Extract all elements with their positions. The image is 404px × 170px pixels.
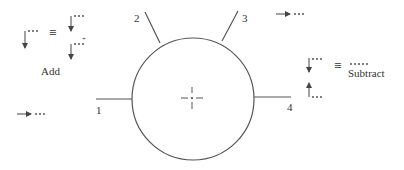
subtract-label: Subtract bbox=[348, 67, 385, 79]
port-2-line bbox=[145, 12, 160, 43]
subtract-arrows-icon bbox=[309, 58, 322, 98]
add-right-arrows-icon: + bbox=[71, 15, 86, 59]
junction-diagram: 1 2 3 4 ≡ + bbox=[0, 0, 404, 170]
port-label-1: 1 bbox=[96, 104, 102, 116]
add-plus-symbol: + bbox=[82, 35, 86, 43]
add-left-arrow-icon bbox=[25, 30, 38, 48]
add-equiv-symbol: ≡ bbox=[49, 25, 56, 40]
junction-circle bbox=[132, 38, 254, 160]
subtract-legend: ≡ Subtract bbox=[309, 58, 385, 98]
input-arrow-top-right-icon bbox=[276, 13, 304, 15]
port-label-2: 2 bbox=[134, 12, 140, 24]
port-label-3: 3 bbox=[242, 12, 248, 24]
add-label: Add bbox=[41, 65, 60, 77]
port-label-4: 4 bbox=[287, 101, 293, 113]
input-arrow-bottom-left-icon bbox=[17, 113, 45, 115]
subtract-equiv-symbol: ≡ bbox=[334, 58, 341, 73]
subtract-dots-icon bbox=[350, 63, 368, 65]
center-crosshair-icon bbox=[181, 87, 203, 109]
port-3-line bbox=[222, 11, 238, 41]
add-legend: ≡ + Add bbox=[25, 15, 86, 77]
